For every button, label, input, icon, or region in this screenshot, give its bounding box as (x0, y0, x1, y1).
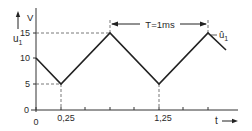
x-axis-arrow-icon (222, 119, 238, 123)
y-tick-5: 5 (25, 79, 30, 89)
x-tick-025: 0,25 (57, 113, 75, 123)
x-axis-label: t (215, 115, 218, 126)
y-tick-10: 10 (20, 53, 30, 63)
period-label: T=1ms (145, 19, 175, 30)
y-tick-0: 0 (24, 105, 29, 115)
x-tick-0: 0 (33, 117, 38, 127)
x-tick-125: 1,25 (154, 113, 172, 123)
u1-waveform (36, 33, 226, 84)
y-axis-arrow-icon (16, 11, 20, 29)
peak-label: û1 (219, 29, 228, 42)
y-tick-15: 15 (20, 28, 30, 38)
triangle-wave-chart: T=1ms û1 V u1 15 10 5 0 0 0,25 1,25 t (0, 0, 252, 131)
y-unit-label: V (27, 12, 34, 23)
